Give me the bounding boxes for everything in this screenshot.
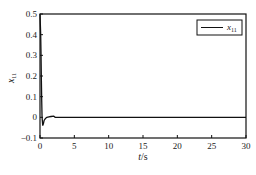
y-axis-label: x11 <box>5 73 17 84</box>
y-tick-label: 0.4 <box>26 30 38 40</box>
legend: x11 <box>197 20 242 35</box>
x-tick-label: 15 <box>139 141 149 151</box>
x-axis: 051015202530 <box>38 135 251 151</box>
y-tick-label: 0.3 <box>26 50 38 60</box>
y-tick-label: −0.1 <box>21 133 37 143</box>
x-tick-label: 10 <box>104 141 114 151</box>
x-tick-label: 0 <box>38 141 43 151</box>
x-tick-label: 25 <box>207 141 217 151</box>
x-tick-label: 20 <box>173 141 183 151</box>
y-tick-label: 0 <box>33 112 38 122</box>
y-tick-label: 0.1 <box>26 92 37 102</box>
y-tick-label: 0.5 <box>26 9 38 19</box>
x-tick-label: 30 <box>242 141 252 151</box>
line-chart: 051015202530 −0.100.10.20.30.40.5 x11 t/… <box>0 0 256 175</box>
y-tick-label: 0.2 <box>26 71 37 81</box>
x-axis-label: t/s <box>138 151 148 162</box>
x-tick-label: 5 <box>72 141 77 151</box>
